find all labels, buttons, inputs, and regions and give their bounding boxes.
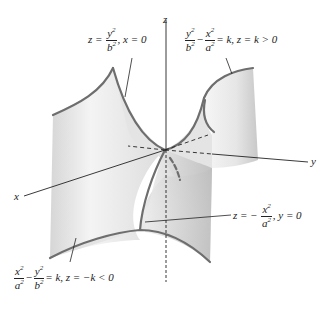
saddle-diagram [0, 0, 332, 310]
label-trace-x0: z = y2b2, x = 0 [88, 28, 146, 53]
label-trace-zk-pos: y2b2−x2a2= k, z = k > 0 [184, 28, 277, 53]
y-axis-label: y [311, 156, 316, 167]
x-axis-label: x [14, 191, 19, 202]
leader-x0 [125, 58, 132, 97]
label-trace-y0: z = − x2a2, y = 0 [233, 204, 302, 229]
z-axis-label: z [163, 14, 167, 25]
label-trace-zk-neg: x2a2−y2b2= k, z = −k < 0 [13, 266, 114, 291]
surface-right-lower [145, 150, 212, 262]
leader-zk-pos [226, 58, 232, 74]
